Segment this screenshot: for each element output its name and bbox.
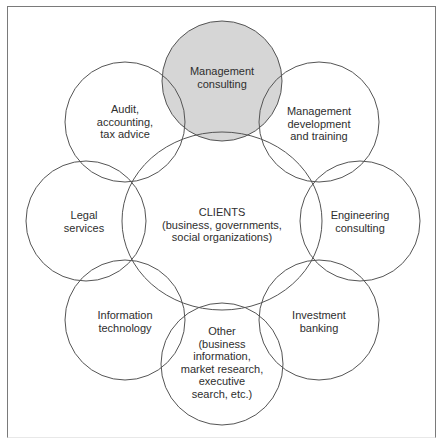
label-audit-accounting: Audit, accounting, tax advice [97,103,153,141]
label-legal-services: Legal services [64,209,104,234]
label-information-technology: Information technology [97,309,152,334]
label-engineering-consulting: Engineering consulting [331,209,390,234]
label-clients: CLIENTS (business, governments, social o… [162,206,282,244]
label-management-consulting: Management consulting [190,65,254,90]
label-investment-banking: Investment banking [292,309,346,334]
label-management-development: Management development and training [287,105,351,143]
label-other: Other (business information, market rese… [181,325,264,400]
